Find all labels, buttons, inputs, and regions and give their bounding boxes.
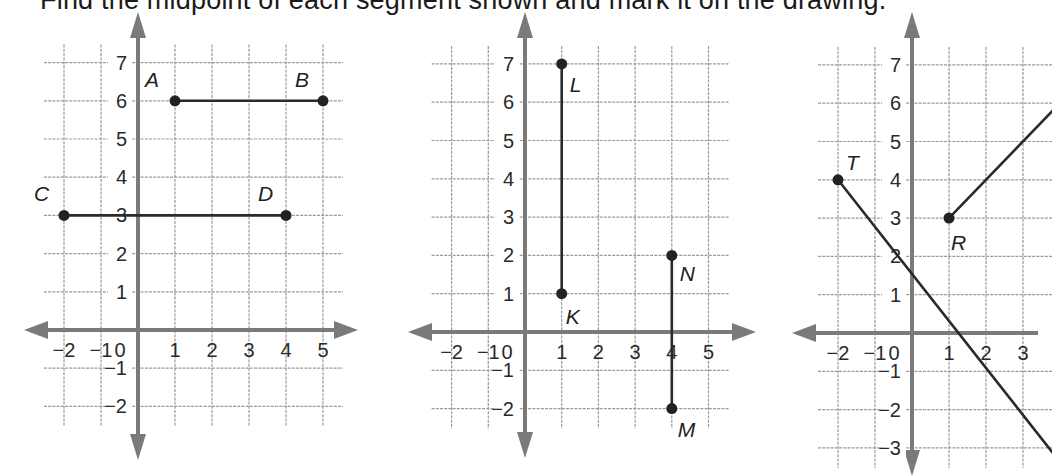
x-axis-right-arrow-icon (732, 323, 756, 341)
coordinate-graphs-canvas: −2−10123457654321−1−2ABCD −2−10123457654… (0, 0, 1052, 476)
point-label-m: M (678, 418, 696, 441)
point-label-t: T (846, 151, 861, 174)
coordinate-graph-3: −2−101237654321−1−2−3TR (792, 12, 1052, 476)
y-tick-label: 1 (890, 284, 901, 306)
x-tick-label: 3 (243, 339, 254, 361)
x-tick-label: −2 (440, 341, 463, 363)
y-tick-label: −3 (878, 437, 901, 459)
y-tick-label: 3 (890, 207, 901, 229)
point-label-r: R (951, 231, 966, 254)
grid-lines (818, 47, 1052, 468)
coordinate-graph-1: −2−10123457654321−1−2ABCD (24, 12, 358, 460)
x-tick-label: 3 (1017, 342, 1028, 364)
point-label-k: K (566, 305, 581, 328)
x-tick-label: 2 (206, 339, 217, 361)
x-tick-label: 5 (703, 341, 714, 363)
x-tick-label: 2 (980, 342, 991, 364)
y-tick-label: 6 (890, 92, 901, 114)
y-tick-label: 4 (503, 168, 514, 190)
y-axis-up-arrow-icon (130, 12, 146, 38)
point-r (944, 213, 955, 224)
point-label-d: D (258, 182, 273, 205)
point-label-l: L (570, 73, 582, 96)
x-tick-label: 1 (169, 339, 180, 361)
segment-tu (838, 180, 1052, 476)
grid-lines (432, 46, 729, 429)
point-label-c: C (34, 182, 50, 205)
point-label-b: B (295, 68, 309, 91)
point-b (318, 95, 329, 106)
y-tick-label: 5 (890, 131, 901, 153)
x-axis-left-arrow-icon (408, 323, 432, 341)
y-axis-down-arrow-icon (130, 434, 146, 460)
y-tick-label: 5 (503, 130, 514, 152)
x-tick-label: 3 (630, 341, 641, 363)
y-tick-label: 1 (116, 281, 127, 303)
y-tick-label: 4 (116, 166, 127, 188)
point-label-a: A (143, 68, 159, 91)
point-k (556, 288, 567, 299)
x-tick-label: −2 (53, 339, 76, 361)
coordinate-graph-2: −2−10123457654321−1−2LKNM (408, 12, 756, 458)
y-axis-up-arrow-icon (517, 12, 533, 38)
y-tick-label: −2 (104, 395, 127, 417)
x-tick-label: 4 (280, 339, 291, 361)
y-tick-label: −1 (491, 359, 514, 381)
y-axis-up-arrow-icon (904, 12, 920, 38)
y-tick-label: 1 (503, 283, 514, 305)
y-tick-label: 3 (503, 206, 514, 228)
point-m (666, 403, 677, 414)
y-axis-down-arrow-icon (517, 432, 533, 458)
y-tick-label: 2 (503, 244, 514, 266)
x-tick-label: −2 (827, 342, 850, 364)
x-axis-left-arrow-icon (792, 324, 816, 342)
point-n (666, 250, 677, 261)
y-tick-label: 2 (116, 243, 127, 265)
x-axis-right-arrow-icon (334, 321, 358, 339)
x-tick-label: 5 (317, 339, 328, 361)
point-c (59, 210, 70, 221)
x-axis-left-arrow-icon (24, 321, 48, 339)
y-tick-label: −1 (878, 360, 901, 382)
point-l (556, 58, 567, 69)
x-tick-label: 1 (556, 341, 567, 363)
y-tick-label: −1 (104, 357, 127, 379)
y-tick-label: 6 (116, 90, 127, 112)
x-tick-label: 2 (593, 341, 604, 363)
y-tick-label: 7 (116, 52, 127, 74)
y-axis-down-arrow-icon (904, 450, 920, 476)
y-tick-label: 7 (503, 53, 514, 75)
point-label-n: N (680, 262, 696, 285)
y-tick-label: 4 (890, 169, 901, 191)
y-tick-label: 6 (503, 91, 514, 113)
point-t (833, 174, 844, 185)
y-tick-label: 7 (890, 54, 901, 76)
point-a (170, 95, 181, 106)
y-tick-label: 5 (116, 128, 127, 150)
y-tick-label: −2 (491, 398, 514, 420)
point-d (281, 210, 292, 221)
y-tick-label: −2 (878, 399, 901, 421)
x-tick-label: 1 (943, 342, 954, 364)
